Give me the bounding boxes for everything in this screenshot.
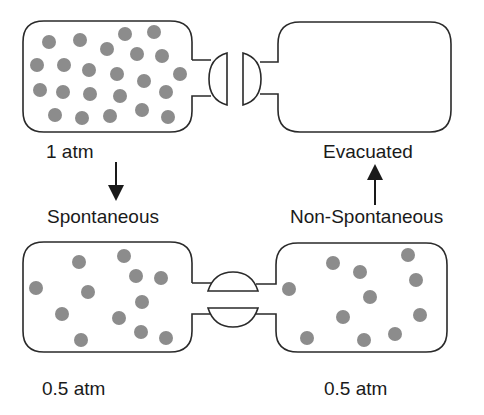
gas-molecule: [48, 108, 62, 122]
gas-molecule: [100, 42, 114, 56]
label-non-spontaneous: Non-Spontaneous: [290, 206, 443, 227]
gas-molecule: [159, 85, 173, 99]
gas-molecule: [110, 67, 124, 81]
bottom-valve-open: [208, 272, 258, 327]
top-left-valve-half: [209, 53, 227, 105]
gas-molecule: [57, 58, 71, 72]
gas-molecule: [75, 111, 89, 125]
label-spontaneous: Spontaneous: [47, 206, 159, 227]
gas-molecule: [388, 327, 402, 341]
gas-molecule: [112, 311, 126, 325]
gas-molecule: [409, 273, 423, 287]
gas-molecule: [353, 265, 367, 279]
gas-molecule: [282, 282, 296, 296]
gas-molecule: [357, 333, 371, 347]
gas-molecule: [326, 256, 340, 270]
top-right-flask: [260, 22, 451, 132]
gas-molecule: [135, 103, 149, 117]
gas-molecule: [72, 255, 86, 269]
bottom-left-molecules: [29, 249, 173, 347]
gas-molecule: [147, 25, 161, 39]
upper-valve-dome: [208, 272, 258, 291]
gas-expansion-diagram: 1 atm Evacuated Spontaneous Non-Spontane…: [0, 0, 484, 415]
gas-molecule: [29, 281, 43, 295]
gas-molecule: [413, 308, 427, 322]
gas-molecule: [42, 35, 56, 49]
lower-valve-dome: [208, 308, 258, 327]
label-bottom-right-pressure: 0.5 atm: [324, 378, 387, 399]
gas-molecule: [135, 295, 149, 309]
gas-molecule: [300, 331, 314, 345]
gas-molecule: [401, 248, 415, 262]
label-bottom-left-pressure: 0.5 atm: [42, 378, 105, 399]
gas-molecule: [113, 89, 127, 103]
gas-molecule: [74, 333, 88, 347]
top-right-valve-half: [243, 53, 261, 105]
gas-molecule: [83, 87, 97, 101]
bottom-left-flask: [23, 242, 212, 352]
top-left-flask: [23, 21, 211, 132]
bottom-right-flask: [256, 243, 447, 352]
gas-molecule: [118, 27, 132, 41]
gas-molecule: [161, 110, 175, 124]
label-top-left-pressure: 1 atm: [46, 141, 94, 162]
gas-molecule: [73, 33, 87, 47]
gas-molecule: [129, 269, 143, 283]
gas-molecule: [130, 47, 144, 61]
gas-molecule: [363, 290, 377, 304]
gas-molecule: [137, 74, 151, 88]
gas-molecule: [117, 249, 131, 263]
gas-molecule: [55, 307, 69, 321]
bottom-right-molecules: [282, 248, 427, 347]
gas-molecule: [154, 271, 168, 285]
gas-molecule: [159, 331, 173, 345]
top-left-molecules: [30, 25, 187, 125]
gas-molecule: [155, 49, 169, 63]
gas-molecule: [173, 67, 187, 81]
gas-molecule: [81, 285, 95, 299]
gas-molecule: [82, 63, 96, 77]
gas-molecule: [33, 83, 47, 97]
gas-molecule: [336, 310, 350, 324]
gas-molecule: [56, 85, 70, 99]
gas-molecule: [30, 58, 44, 72]
gas-molecule: [134, 325, 148, 339]
gas-molecule: [103, 109, 117, 123]
label-top-right-state: Evacuated: [323, 141, 413, 162]
